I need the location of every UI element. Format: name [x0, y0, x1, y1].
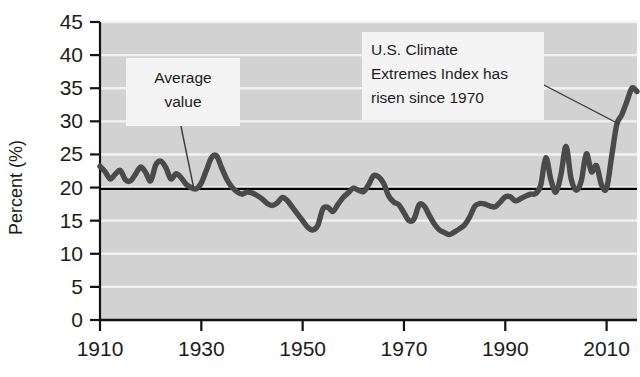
y-tick-label-35: 35 [60, 76, 83, 99]
average-value-label-line1: Average [154, 69, 211, 86]
y-axis: 454035302520151050 [60, 10, 100, 331]
x-tick-label-1990: 1990 [482, 337, 529, 360]
y-tick-label-10: 10 [60, 242, 83, 265]
y-tick-label-25: 25 [60, 142, 83, 165]
y-tick-label-15: 15 [60, 209, 83, 232]
trend-note-line1: U.S. Climate [371, 41, 458, 58]
x-axis: 191019301950197019902010 [77, 320, 630, 360]
y-tick-label-5: 5 [71, 275, 83, 298]
average-value-label-line2: value [164, 93, 201, 110]
trend-note-line2: Extremes Index has [371, 65, 508, 82]
x-tick-label-2010: 2010 [583, 337, 630, 360]
x-tick-label-1930: 1930 [178, 337, 225, 360]
trend-note-line3: risen since 1970 [371, 89, 484, 106]
y-tick-label-40: 40 [60, 43, 83, 66]
x-tick-label-1910: 1910 [77, 337, 124, 360]
x-tick-label-1970: 1970 [381, 337, 428, 360]
x-tick-label-1950: 1950 [279, 337, 326, 360]
y-tick-label-30: 30 [60, 109, 83, 132]
y-tick-label-45: 45 [60, 10, 83, 33]
y-axis-label: Percent (%) [6, 140, 26, 235]
y-tick-label-20: 20 [60, 176, 83, 199]
y-tick-label-0: 0 [71, 308, 83, 331]
chart-canvas: 454035302520151050 191019301950197019902… [0, 0, 640, 377]
climate-extremes-index-chart: 454035302520151050 191019301950197019902… [0, 0, 640, 377]
